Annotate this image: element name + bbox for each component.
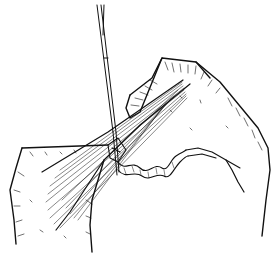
wavy-strand xyxy=(118,148,240,178)
tissue-fibers xyxy=(46,82,187,228)
surgical-illustration xyxy=(0,0,279,264)
right-hand xyxy=(126,58,270,236)
right-hand-hatching xyxy=(131,62,262,150)
